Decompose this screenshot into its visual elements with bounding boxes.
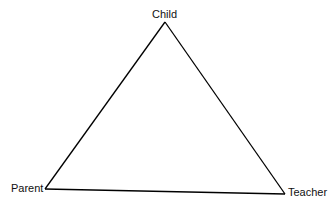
node-label-child: Child	[152, 9, 177, 20]
triangle-diagram	[0, 0, 335, 205]
edge-child-teacher	[165, 22, 285, 194]
node-label-teacher: Teacher	[288, 187, 327, 198]
edge-parent-teacher	[45, 189, 285, 194]
edge-child-parent	[45, 22, 165, 189]
node-label-parent: Parent	[11, 183, 43, 194]
